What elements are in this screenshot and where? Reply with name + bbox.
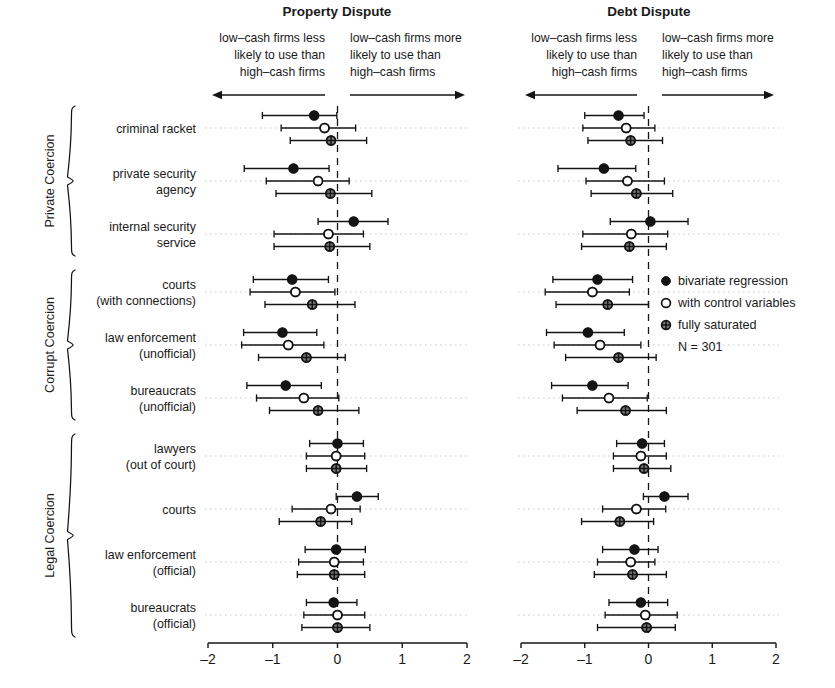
legend-label-0: bivariate regression xyxy=(678,274,788,288)
row-label-5: (unofficial) xyxy=(139,400,196,414)
estimate-debt-5-0-filled-circle-marker xyxy=(588,381,597,390)
row-label-1: agency xyxy=(156,183,197,197)
x-tick-label-property-0: 0 xyxy=(334,651,342,667)
right-direction-note-property: high–cash firms xyxy=(350,65,435,79)
row-label-1: private security xyxy=(113,167,197,181)
left-arrow-head-debt xyxy=(525,91,535,99)
panel-title-debt: Debt Dispute xyxy=(607,4,691,19)
row-label-6: lawyers xyxy=(154,442,196,456)
estimate-property-7-1-open-circle-marker xyxy=(327,505,336,514)
estimate-debt-5-1-open-circle-marker xyxy=(605,394,614,403)
estimate-debt-6-0-filled-circle-marker xyxy=(638,439,647,448)
estimate-debt-3-0-filled-circle-marker xyxy=(593,275,602,284)
estimate-property-7-0-filled-circle-marker xyxy=(353,492,362,501)
estimate-property-9-1-open-circle-marker xyxy=(333,611,342,620)
estimate-property-5-1-open-circle-marker xyxy=(299,394,308,403)
row-label-8: law enforcement xyxy=(105,548,196,562)
estimate-property-9-0-filled-circle-marker xyxy=(329,598,338,607)
right-direction-note-debt: high–cash firms xyxy=(662,65,747,79)
row-label-9: bureaucrats xyxy=(131,601,196,615)
estimate-property-3-0-filled-circle-marker xyxy=(288,275,297,284)
x-tick-label-debt-2: 2 xyxy=(772,651,780,667)
row-label-5: bureaucrats xyxy=(131,384,196,398)
right-direction-note-property: low–cash firms more xyxy=(350,31,462,45)
coefficient-plot-figure: Property Disputelow–cash firms lesslikel… xyxy=(0,0,835,688)
row-label-4: law enforcement xyxy=(105,331,196,345)
legend-n-label: N = 301 xyxy=(678,340,722,354)
panel-title-property: Property Dispute xyxy=(283,4,392,19)
x-tick-label-debt-0: 0 xyxy=(645,651,653,667)
x-tick-label-debt-1: 1 xyxy=(708,651,716,667)
row-label-3: courts xyxy=(162,278,196,292)
row-label-0: criminal racket xyxy=(116,122,196,136)
estimate-property-1-0-filled-circle-marker xyxy=(289,164,298,173)
left-direction-note-debt: high–cash firms xyxy=(552,65,637,79)
estimate-property-4-0-filled-circle-marker xyxy=(278,328,287,337)
legend-item-1-open-circle-marker xyxy=(662,299,671,308)
estimate-property-0-0-filled-circle-marker xyxy=(310,111,319,120)
estimate-debt-1-0-filled-circle-marker xyxy=(599,164,608,173)
figure-canvas: Property Disputelow–cash firms lesslikel… xyxy=(0,0,835,688)
x-tick-label-property--1: –1 xyxy=(265,651,281,667)
estimate-property-6-0-filled-circle-marker xyxy=(333,439,342,448)
left-direction-note-debt: low–cash firms less xyxy=(531,31,637,45)
row-label-2: internal security xyxy=(109,220,197,234)
legend-label-2: fully saturated xyxy=(678,318,756,332)
estimate-debt-8-0-filled-circle-marker xyxy=(630,545,639,554)
x-tick-label-property--2: –2 xyxy=(200,651,216,667)
estimate-property-0-1-open-circle-marker xyxy=(320,124,329,133)
estimate-property-4-1-open-circle-marker xyxy=(284,341,293,350)
estimate-property-6-1-open-circle-marker xyxy=(332,452,341,461)
estimate-debt-8-1-open-circle-marker xyxy=(626,558,635,567)
estimate-property-1-1-open-circle-marker xyxy=(314,177,323,186)
legend-item-0-filled-circle-marker xyxy=(662,277,671,286)
x-tick-label-debt--2: –2 xyxy=(513,651,529,667)
right-direction-note-debt: likely to use than xyxy=(662,48,753,62)
row-label-8: (official) xyxy=(153,564,196,578)
left-direction-note-property: low–cash firms less xyxy=(219,31,325,45)
left-direction-note-property: likely to use than xyxy=(234,48,325,62)
group-label-2: Legal Coercion xyxy=(43,493,57,578)
estimate-debt-9-1-open-circle-marker xyxy=(641,611,650,620)
group-brace-0 xyxy=(68,106,76,256)
estimate-property-3-1-open-circle-marker xyxy=(291,288,300,297)
x-tick-label-property-2: 2 xyxy=(463,651,471,667)
group-label-0: Private Coercion xyxy=(43,134,57,227)
left-arrow-head-property xyxy=(212,91,222,99)
estimate-debt-4-1-open-circle-marker xyxy=(596,341,605,350)
group-label-1: Corrupt Coercion xyxy=(43,297,57,393)
right-direction-note-property: likely to use than xyxy=(350,48,441,62)
row-label-7: courts xyxy=(162,503,196,517)
estimate-debt-3-1-open-circle-marker xyxy=(588,288,597,297)
estimate-property-8-1-open-circle-marker xyxy=(330,558,339,567)
group-brace-1 xyxy=(68,270,76,420)
estimate-debt-7-0-filled-circle-marker xyxy=(660,492,669,501)
legend-label-1: with control variables xyxy=(677,296,796,310)
estimate-debt-2-1-open-circle-marker xyxy=(627,230,636,239)
estimate-debt-0-1-open-circle-marker xyxy=(622,124,631,133)
estimate-debt-6-1-open-circle-marker xyxy=(636,452,645,461)
row-label-6: (out of court) xyxy=(126,458,196,472)
group-brace-2 xyxy=(68,434,76,637)
x-tick-label-debt--1: –1 xyxy=(577,651,593,667)
estimate-debt-1-1-open-circle-marker xyxy=(623,177,632,186)
x-tick-label-property-1: 1 xyxy=(398,651,406,667)
row-label-3: (with connections) xyxy=(96,294,196,308)
right-arrow-head-debt xyxy=(764,91,774,99)
estimate-debt-7-1-open-circle-marker xyxy=(632,505,641,514)
estimate-property-5-0-filled-circle-marker xyxy=(281,381,290,390)
estimate-debt-4-0-filled-circle-marker xyxy=(584,328,593,337)
estimate-debt-2-0-filled-circle-marker xyxy=(646,217,655,226)
estimate-property-2-1-open-circle-marker xyxy=(324,230,333,239)
row-label-2: service xyxy=(157,236,196,250)
right-arrow-head-property xyxy=(455,91,465,99)
left-direction-note-property: high–cash firms xyxy=(240,65,325,79)
estimate-debt-0-0-filled-circle-marker xyxy=(614,111,623,120)
estimate-property-2-0-filled-circle-marker xyxy=(349,217,358,226)
estimate-property-8-0-filled-circle-marker xyxy=(332,545,341,554)
right-direction-note-debt: low–cash firms more xyxy=(662,31,774,45)
row-label-9: (official) xyxy=(153,617,196,631)
left-direction-note-debt: likely to use than xyxy=(546,48,637,62)
estimate-debt-9-0-filled-circle-marker xyxy=(636,598,645,607)
row-label-4: (unofficial) xyxy=(139,347,196,361)
